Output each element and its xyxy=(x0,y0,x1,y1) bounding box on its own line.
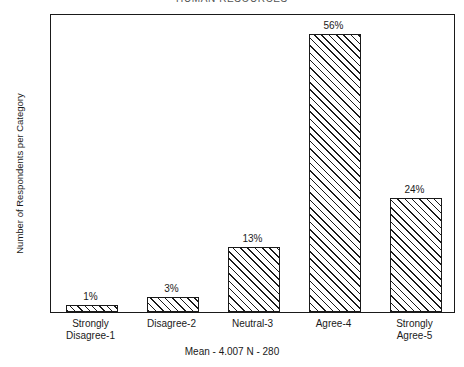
chart-title: HUMAN RESOURCES xyxy=(0,0,464,4)
bar-value-label: 1% xyxy=(61,291,121,302)
bar xyxy=(228,247,280,312)
x-axis-category-label: Neutral-3 xyxy=(208,318,298,330)
bar-value-label: 56% xyxy=(304,20,364,31)
x-axis-category-label: Agree-4 xyxy=(289,318,379,330)
bar xyxy=(147,297,199,312)
plot-area xyxy=(51,15,454,312)
bar-value-label: 3% xyxy=(142,283,202,294)
x-axis-category-label: Disagree-2 xyxy=(127,318,217,330)
bar-value-label: 24% xyxy=(385,184,445,195)
plot-frame xyxy=(50,14,455,313)
x-axis-category-label: StronglyDisagree-1 xyxy=(46,318,136,341)
bar-chart-figure: HUMAN RESOURCES Number of Respondents pe… xyxy=(0,0,464,367)
bar xyxy=(390,198,442,312)
x-axis-category-label: StronglyAgree-5 xyxy=(370,318,460,341)
bar xyxy=(66,305,118,312)
chart-footer: Mean - 4.007 N - 280 xyxy=(0,346,464,357)
bar-value-label: 13% xyxy=(223,233,283,244)
bar xyxy=(309,34,361,312)
y-axis-title: Number of Respondents per Category xyxy=(14,59,25,289)
